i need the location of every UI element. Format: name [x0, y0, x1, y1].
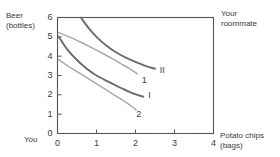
curve-I — [59, 36, 144, 96]
curve-label-I: I — [148, 91, 151, 100]
x-tick-label-1: 1 — [91, 139, 103, 148]
indifference-curve-figure: Beer(bottles) Yourroommate Potato chips(… — [0, 0, 280, 157]
curve-2 — [59, 60, 137, 110]
y-tick-label-0: 0 — [44, 129, 53, 138]
curve-II — [81, 18, 155, 69]
x-tick-label-0: 0 — [52, 139, 64, 148]
y-tick-label-3: 3 — [44, 71, 53, 80]
curve-label-2: 2 — [136, 110, 141, 119]
y-tick-label-1: 1 — [44, 110, 53, 119]
x-tick-label-4: 4 — [208, 139, 220, 148]
curve-label-II: II — [160, 66, 165, 75]
curve-label-1: 1 — [142, 76, 147, 85]
y-tick-label-4: 4 — [44, 52, 53, 61]
y-tick-label-6: 6 — [44, 13, 53, 22]
x-tick-label-2: 2 — [130, 139, 142, 148]
plot-canvas — [0, 0, 280, 157]
x-tick-label-3: 3 — [169, 139, 181, 148]
y-tick-label-5: 5 — [44, 32, 53, 41]
y-tick-label-2: 2 — [44, 90, 53, 99]
